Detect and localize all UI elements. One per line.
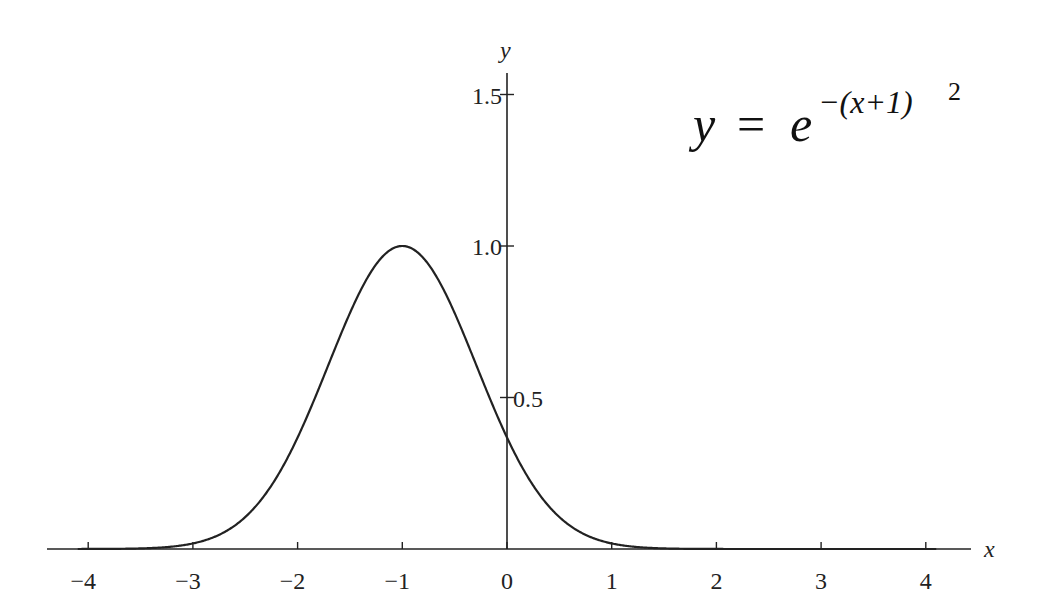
x-tick-label: −2 [280,568,306,594]
x-tick-label: −1 [385,568,411,594]
y-axis-label: y [498,37,511,63]
x-tick-label: 1 [606,568,618,594]
x-tick-label: 4 [920,568,932,594]
formula-exponent-square: 2 [948,77,961,106]
y-tick-label: 1.0 [472,234,502,260]
formula-y: y [688,96,716,152]
formula-annotation: y = e −(x+1) 2 [688,77,961,152]
x-tick-label: −4 [70,568,96,594]
formula-exponent: −(x+1) [818,84,913,120]
y-tick-label: 0.5 [513,386,543,412]
chart-canvas: −4−3−2−101234 0.51.01.5 x y y = e −(x+1)… [0,0,1052,616]
y-tick-label: 1.5 [472,83,502,109]
x-tick-label: −3 [175,568,201,594]
formula-e: e [790,96,812,152]
x-axis-label: x [983,536,995,562]
x-tick-label: 2 [710,568,722,594]
formula-equals: = [737,96,765,152]
x-tick-label: 3 [815,568,827,594]
x-tick-label: 0 [501,568,513,594]
axes [47,73,971,549]
